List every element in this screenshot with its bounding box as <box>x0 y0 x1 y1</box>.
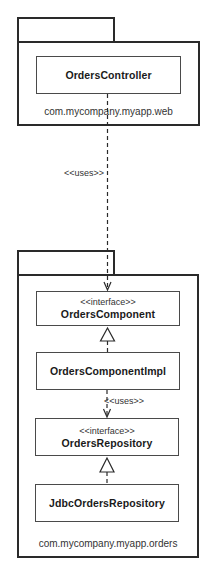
uses-label-controller: <<uses>> <box>64 168 104 178</box>
relationship-label: <<uses>> <box>104 396 144 406</box>
relationship-edges <box>0 0 215 565</box>
uses-label-impl: <<uses>> <box>104 396 144 406</box>
relationship-label: <<uses>> <box>64 168 104 178</box>
hollow-triangle-icon <box>100 458 114 472</box>
hollow-triangle-icon <box>101 328 115 341</box>
